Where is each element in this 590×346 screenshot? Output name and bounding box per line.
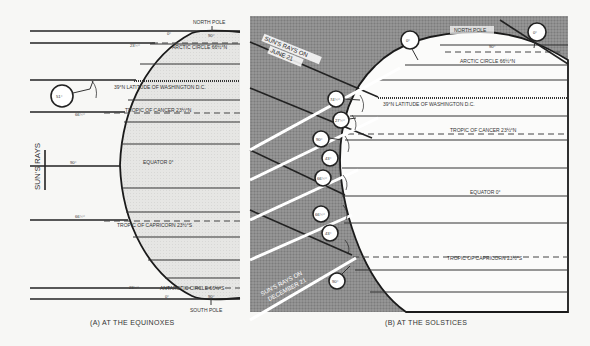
angle-capricorn-a: 66½° [75, 214, 85, 219]
svg-text:66½°: 66½° [317, 176, 327, 181]
svg-text:0°: 0° [533, 30, 537, 35]
tropic-cancer-label-b: TROPIC OF CANCER 23½°N [450, 127, 517, 133]
panel-equinoxes: NORTH POLE 0° 90° 23½° ARCTIC CIRCLE 66½… [30, 19, 242, 327]
angle-antarctic-a: 23½° [129, 285, 139, 290]
tropic-capricorn-label-b: TROPIC OF CAPRICORN 23½°S [447, 255, 523, 261]
arctic-circle-label-b: ARCTIC CIRCLE 66½°N [460, 58, 515, 64]
angle-equator-a: 90° [70, 160, 77, 165]
caption-equinoxes: (A) AT THE EQUINOXES [90, 319, 175, 327]
angle-washington-a: 51° [56, 94, 63, 99]
tropic-cancer-label-a: TROPIC OF CANCER 23½°N [125, 107, 192, 113]
svg-text:90°: 90° [332, 279, 339, 284]
suns-rays-label: SUN'S RAYS [33, 143, 42, 190]
south-pole-label-a: SOUTH POLE [190, 307, 223, 313]
tropic-capricorn-label-a: TROPIC OF CAPRICORN 23½°S [117, 222, 193, 228]
svg-text:74½°: 74½° [330, 97, 340, 102]
north-pole-label-b: NORTH POLE [454, 27, 487, 33]
arctic-circle-label-a: ARCTIC CIRCLE 66½°N [172, 44, 227, 50]
equator-label-b: EQUATOR 0° [470, 189, 500, 195]
washington-label-b: 39°N LATITUDE OF WASHINGTON D.C. [383, 101, 475, 107]
angle-np-right-a: 90° [208, 33, 215, 38]
angle-arctic-a: 23½° [130, 43, 140, 48]
caption-solstices: (B) AT THE SOLSTICES [385, 319, 467, 327]
svg-text:43°: 43° [325, 156, 332, 161]
angle-sp-right-a: 90° [208, 294, 215, 299]
washington-label-a: 39°N LATITUDE OF WASHINGTON D.C. [114, 84, 206, 90]
panel-solstices: SUN'S RAYS ON JUNE 21 SUN'S RAYS ON DECE… [250, 16, 568, 327]
svg-text:90°: 90° [316, 137, 323, 142]
diagram-canvas: NORTH POLE 0° 90° 23½° ARCTIC CIRCLE 66½… [0, 0, 590, 346]
angle-np-left-a: 0° [167, 31, 171, 36]
angle-np-b: 90° [489, 44, 496, 49]
earth-outline [120, 31, 240, 300]
antarctic-circle-label-a: ANTARCTIC CIRCLE 66½°S [160, 285, 225, 291]
north-pole-label-a: NORTH POLE [193, 19, 226, 25]
svg-text:0°: 0° [406, 38, 410, 43]
angle-cancer-a: 66½° [75, 112, 85, 117]
svg-text:27½°: 27½° [335, 118, 345, 123]
angle-sp-left-a: 0° [165, 294, 169, 299]
svg-text:43°: 43° [325, 231, 332, 236]
equator-label-a: EQUATOR 0° [143, 159, 173, 165]
svg-text:66½°: 66½° [315, 212, 325, 217]
